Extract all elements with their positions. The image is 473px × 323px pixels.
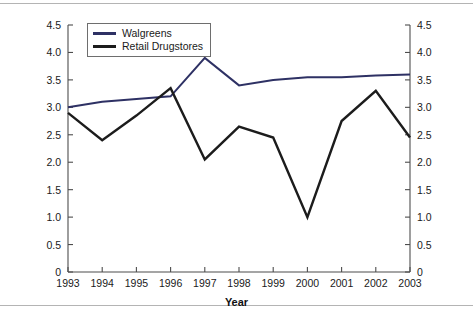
y-tick-label-right-4.0: 4.0 xyxy=(417,47,432,58)
x-tick-label-1993: 1993 xyxy=(56,278,79,289)
x-tick-label-1996: 1996 xyxy=(159,278,182,289)
y-tick-label-right-1.5: 1.5 xyxy=(417,185,432,196)
x-axis-title: Year xyxy=(0,296,473,308)
legend-swatch-icon xyxy=(93,45,116,48)
x-tick-label-1994: 1994 xyxy=(91,278,114,289)
x-tick-label-2000: 2000 xyxy=(296,278,319,289)
x-tick-label-1999: 1999 xyxy=(262,278,285,289)
legend-label: Retail Drugstores xyxy=(122,41,203,52)
axis-frame xyxy=(68,25,410,272)
x-tick-label-1995: 1995 xyxy=(125,278,148,289)
x-tick-label-1997: 1997 xyxy=(193,278,216,289)
top-rule xyxy=(0,3,473,4)
x-tick-label-1998: 1998 xyxy=(227,278,250,289)
y-tick-label-left-4.0: 4.0 xyxy=(46,47,61,58)
plot-canvas xyxy=(68,25,410,272)
y-tick-label-right-3.0: 3.0 xyxy=(417,102,432,113)
legend-swatch-icon xyxy=(93,32,116,35)
y-tick-label-left-3.5: 3.5 xyxy=(46,75,61,86)
plot-area xyxy=(68,25,410,272)
y-tick-label-right-4.5: 4.5 xyxy=(417,20,432,31)
x-tick-label-2003: 2003 xyxy=(398,278,421,289)
x-tick-label-2002: 2002 xyxy=(364,278,387,289)
legend-label: Walgreens xyxy=(122,28,172,39)
y-tick-label-left-0.5: 0.5 xyxy=(46,240,61,251)
series-line-walgreens xyxy=(68,58,410,107)
x-tick-label-2001: 2001 xyxy=(330,278,353,289)
data-series-group xyxy=(68,58,410,217)
y-tick-label-left-0: 0 xyxy=(55,267,61,278)
y-tick-label-right-2.5: 2.5 xyxy=(417,130,432,141)
y-tick-label-right-3.5: 3.5 xyxy=(417,75,432,86)
y-tick-label-left-1.5: 1.5 xyxy=(46,185,61,196)
y-tick-label-left-2.0: 2.0 xyxy=(46,157,61,168)
y-tick-label-left-3.0: 3.0 xyxy=(46,102,61,113)
chart-figure: Net Profit Margin (%) 4.54.54.04.03.53.5… xyxy=(0,0,473,323)
y-tick-label-left-4.5: 4.5 xyxy=(46,20,61,31)
series-line-retail-drugstores xyxy=(68,88,410,217)
y-tick-label-right-0: 0 xyxy=(417,267,423,278)
y-tick-label-right-2.0: 2.0 xyxy=(417,157,432,168)
y-tick-label-left-2.5: 2.5 xyxy=(46,130,61,141)
chart-legend: WalgreensRetail Drugstores xyxy=(87,23,211,57)
legend-item-walgreens: Walgreens xyxy=(93,27,203,40)
y-tick-label-left-1.0: 1.0 xyxy=(46,212,61,223)
legend-item-retail-drugstores: Retail Drugstores xyxy=(93,40,203,53)
y-tick-label-right-1.0: 1.0 xyxy=(417,212,432,223)
y-tick-label-right-0.5: 0.5 xyxy=(417,240,432,251)
